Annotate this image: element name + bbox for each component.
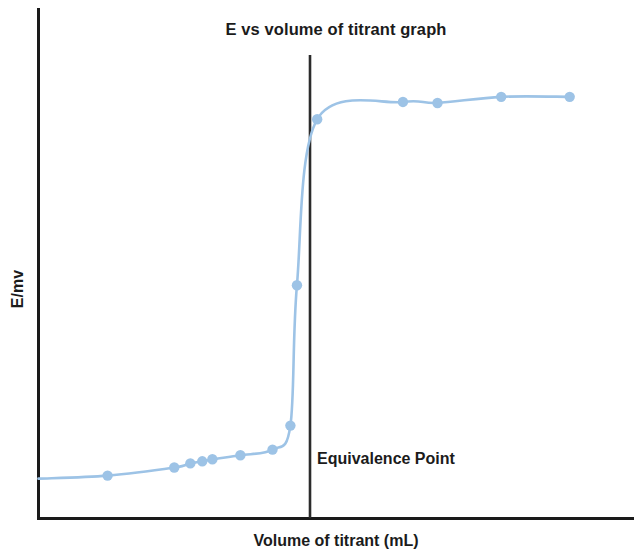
titration-curve — [39, 96, 570, 478]
data-point — [197, 456, 207, 466]
axis-frame — [37, 8, 634, 519]
data-point — [169, 462, 179, 472]
data-point — [285, 420, 295, 430]
data-point-markers — [102, 92, 575, 481]
data-point — [312, 114, 322, 124]
data-point — [292, 280, 302, 290]
data-point — [398, 97, 408, 107]
equivalence-point-label: Equivalence Point — [317, 450, 455, 468]
data-point — [496, 92, 506, 102]
data-point — [432, 98, 442, 108]
data-point — [207, 454, 217, 464]
data-point — [564, 92, 574, 102]
data-point — [102, 470, 112, 480]
titration-chart: E vs volume of titrant graph E/mv Volume… — [0, 0, 634, 555]
data-point — [267, 444, 277, 454]
plot-area — [0, 0, 634, 555]
data-point — [185, 458, 195, 468]
data-point — [235, 450, 245, 460]
